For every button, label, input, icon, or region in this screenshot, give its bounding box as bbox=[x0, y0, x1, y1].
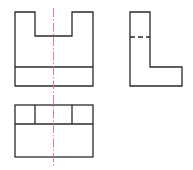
orthographic-drawing bbox=[0, 0, 193, 170]
front-view bbox=[15, 12, 93, 86]
top-view bbox=[15, 105, 93, 157]
top-view-outline bbox=[15, 105, 93, 157]
side-view bbox=[130, 12, 182, 86]
front-view-outline bbox=[15, 12, 93, 86]
side-view-outline bbox=[130, 12, 182, 86]
